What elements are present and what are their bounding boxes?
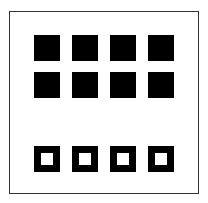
filled-square: [110, 35, 136, 61]
filled-square: [72, 72, 98, 98]
hollow-square: [34, 146, 60, 172]
filled-square: [34, 35, 60, 61]
filled-square: [72, 35, 98, 61]
filled-square: [148, 72, 174, 98]
filled-square: [110, 72, 136, 98]
hollow-square: [110, 146, 136, 172]
filled-square: [34, 72, 60, 98]
hollow-square: [148, 146, 174, 172]
filled-square: [148, 35, 174, 61]
hollow-square: [72, 146, 98, 172]
